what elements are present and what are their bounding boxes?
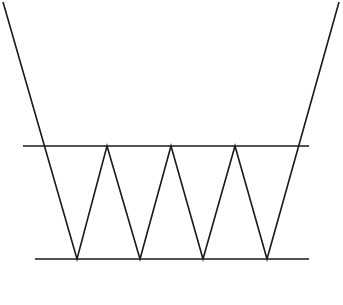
zigzag-line xyxy=(3,2,339,259)
zigzag-diagram xyxy=(0,0,343,305)
